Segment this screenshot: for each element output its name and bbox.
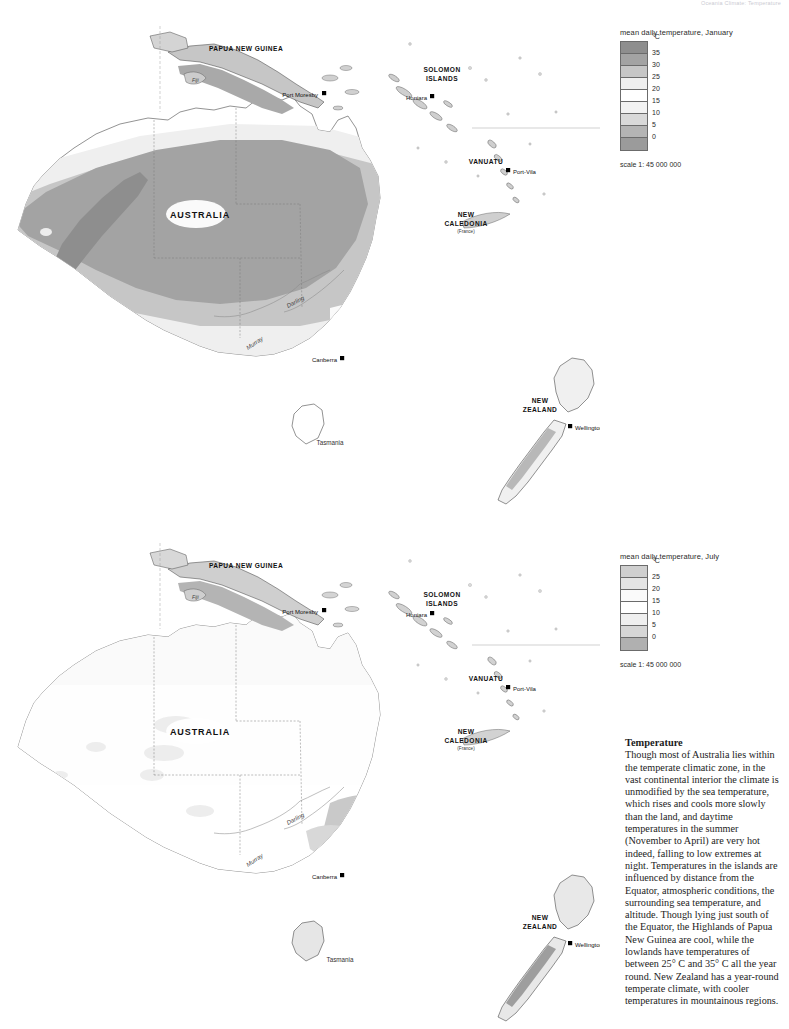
legend-unit-january: °C	[652, 33, 660, 41]
label-new-caledonia-sub-july: (France)	[457, 746, 475, 751]
legend-january-title: mean daily temperature, January	[620, 28, 785, 37]
legend-tick-july-5: 5	[652, 621, 656, 629]
legend-swatch-january-3	[621, 78, 647, 90]
legend-swatch-january-7	[621, 126, 647, 138]
label-vanuatu-july: VANUATU	[469, 675, 503, 682]
label-solomon-islands-2-july: ISLANDS	[426, 600, 458, 607]
label-new-zealand-1-july: NEW	[532, 914, 549, 921]
legend-swatch-july-3	[621, 602, 647, 614]
legend-swatch-july-5	[621, 626, 647, 638]
temperature-article: Temperature Though most of Australia lie…	[625, 737, 783, 1008]
city-dot-port-vila-july	[506, 685, 510, 689]
legend-swatch-january-6	[621, 114, 647, 126]
legend-swatch-july-4	[621, 614, 647, 626]
legend-tick-july-15: 15	[652, 597, 660, 605]
city-dot-canberra-july	[340, 873, 344, 877]
legend-july-title: mean daily temperature, July	[620, 552, 785, 561]
label-vanuatu: VANUATU	[469, 158, 503, 165]
city-dot-canberra	[340, 356, 344, 360]
city-label-port-vila-july: Port-Vila	[513, 686, 537, 692]
label-fiji-july: Fiji	[192, 594, 199, 600]
legend-july-scale: scale 1: 45 000 000	[620, 661, 785, 668]
label-australia: AUSTRALIA	[170, 210, 230, 220]
article-heading: Temperature	[625, 737, 783, 749]
legend-swatch-january-1	[621, 54, 647, 66]
city-dot-port-moresby-july	[322, 608, 326, 612]
label-new-caledonia-1-july: NEW	[458, 728, 475, 735]
city-label-port-moresby: Port Moresby	[282, 92, 318, 98]
legend-tick-july-20: 20	[652, 585, 660, 593]
legend-july-labels: °C2520151050	[652, 565, 692, 649]
legend-january: mean daily temperature, January °C353025…	[620, 28, 785, 168]
label-solomon-islands-1: SOLOMON	[423, 66, 460, 73]
article-body: Though most of Australia lies within the…	[625, 749, 783, 1007]
legend-swatch-july-1	[621, 578, 647, 590]
city-label-honiara-july: Honiara	[406, 612, 428, 618]
legend-tick-january-35: 35	[652, 49, 660, 57]
interior-void-1	[40, 228, 52, 236]
label-new-caledonia-1: NEW	[458, 211, 475, 218]
label-australia-july: AUSTRALIA	[170, 727, 230, 737]
city-dot-port-moresby	[322, 91, 326, 95]
legend-tick-july-10: 10	[652, 609, 660, 617]
city-dot-wellington-july	[568, 941, 572, 945]
city-label-wellington: Wellington	[575, 425, 600, 431]
legend-january-scale: scale 1: 45 000 000	[620, 161, 785, 168]
city-label-canberra-july: Canberra	[312, 874, 338, 880]
legend-swatch-january-5	[621, 102, 647, 114]
city-label-honiara: Honiara	[406, 95, 428, 101]
label-solomon-islands-2: ISLANDS	[426, 75, 458, 82]
label-new-caledonia-2-july: CALEDONIA	[444, 737, 487, 744]
legend-tick-january-20: 20	[652, 85, 660, 93]
legend-july: mean daily temperature, July °C252015105…	[620, 552, 785, 668]
city-dot-wellington	[568, 424, 572, 428]
city-dot-port-vila	[506, 168, 510, 172]
map-january-svg: AUSTRALIA PAPUA NEW GUINEA SOLOMON ISLAN…	[0, 8, 600, 518]
legend-swatch-january-2	[621, 66, 647, 78]
legend-swatch-january-4	[621, 90, 647, 102]
label-papua-new-guinea-july: PAPUA NEW GUINEA	[209, 562, 283, 569]
label-fiji: Fiji	[192, 77, 199, 83]
label-tasmania-july: Tasmania	[327, 956, 354, 963]
legend-swatch-july-6	[621, 638, 647, 650]
legend-tick-january-10: 10	[652, 109, 660, 117]
page-header: Oceania Climate: Temperature	[701, 0, 781, 6]
city-dot-honiara	[430, 94, 434, 98]
legend-swatch-july-2	[621, 590, 647, 602]
label-new-zealand-2-july: ZEALAND	[523, 923, 558, 930]
legend-unit-july: °C	[652, 557, 660, 565]
legend-swatch-january-0	[621, 42, 647, 54]
legend-tick-january-25: 25	[652, 73, 660, 81]
label-papua-new-guinea: PAPUA NEW GUINEA	[209, 45, 283, 52]
city-label-port-moresby-july: Port Moresby	[282, 609, 318, 615]
label-new-zealand-2: ZEALAND	[523, 406, 558, 413]
legend-swatch-july-0	[621, 566, 647, 578]
legend-tick-july-25: 25	[652, 573, 660, 581]
map-panel-july: AUSTRALIA PAPUA NEW GUINEA SOLOMON ISLAN…	[0, 535, 600, 1029]
label-solomon-islands-1-july: SOLOMON	[423, 591, 460, 598]
legend-january-swatches	[620, 41, 648, 151]
legend-tick-july-0: 0	[652, 633, 656, 641]
legend-tick-january-0: 0	[652, 133, 656, 141]
legend-tick-january-15: 15	[652, 97, 660, 105]
label-new-caledonia-2: CALEDONIA	[444, 220, 487, 227]
label-tasmania: Tasmania	[317, 439, 344, 446]
city-label-port-vila: Port-Vila	[513, 169, 537, 175]
map-panel-january: AUSTRALIA PAPUA NEW GUINEA SOLOMON ISLAN…	[0, 8, 600, 518]
legend-january-labels: °C35302520151050	[652, 41, 692, 149]
legend-july-swatches	[620, 565, 648, 651]
label-new-caledonia-sub: (France)	[457, 229, 475, 234]
map-july-svg: AUSTRALIA PAPUA NEW GUINEA SOLOMON ISLAN…	[0, 535, 600, 1029]
label-new-zealand-1: NEW	[532, 397, 549, 404]
city-label-canberra: Canberra	[312, 357, 338, 363]
legend-swatch-january-8	[621, 138, 647, 150]
city-label-wellington-july: Wellington	[575, 942, 600, 948]
legend-tick-january-30: 30	[652, 61, 660, 69]
legend-tick-january-5: 5	[652, 121, 656, 129]
city-dot-honiara-july	[430, 611, 434, 615]
